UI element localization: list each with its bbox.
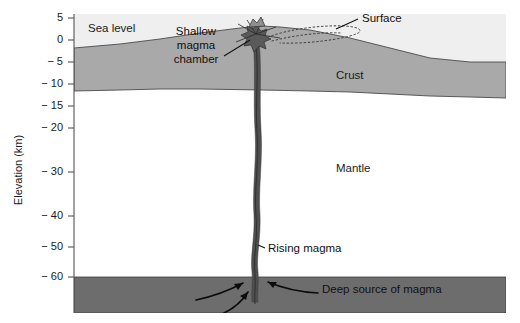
y-axis-ticks (68, 18, 74, 277)
mantle-label: Mantle (336, 162, 371, 174)
rising-magma-label: Rising magma (268, 242, 342, 254)
y-tick-label--20: − 20 (41, 121, 63, 133)
y-tick-label--10: − 10 (41, 77, 63, 89)
y-tick-label--40: − 40 (41, 209, 63, 221)
sea-level-label: Sea level (88, 22, 135, 34)
y-tick-label--15: − 15 (41, 99, 63, 111)
cross-section-diagram: 5 0 − 5 − 10 − 15 − 20 − 30 − 40 − 50 − … (0, 0, 520, 323)
y-tick-label--5: − 5 (47, 55, 63, 67)
figure-container: 5 0 − 5 − 10 − 15 − 20 − 30 − 40 − 50 − … (0, 0, 520, 323)
crust-label: Crust (336, 69, 364, 81)
shallow-magma-chamber-label-line1: Shallow (176, 25, 217, 37)
y-tick-label--30: − 30 (41, 165, 63, 177)
y-tick-label--50: − 50 (41, 240, 63, 252)
deep-source-label: Deep source of magma (322, 283, 442, 295)
surface-label: Surface (362, 12, 402, 24)
shallow-magma-chamber-label-line3: chamber (174, 53, 219, 65)
shallow-magma-chamber-label-line2: magma (177, 39, 216, 51)
y-tick-label-0: 0 (57, 33, 63, 45)
y-tick-label-5: 5 (57, 11, 63, 23)
y-axis-title: Elevation (km) (12, 135, 24, 205)
y-tick-label--60: − 60 (41, 270, 63, 282)
